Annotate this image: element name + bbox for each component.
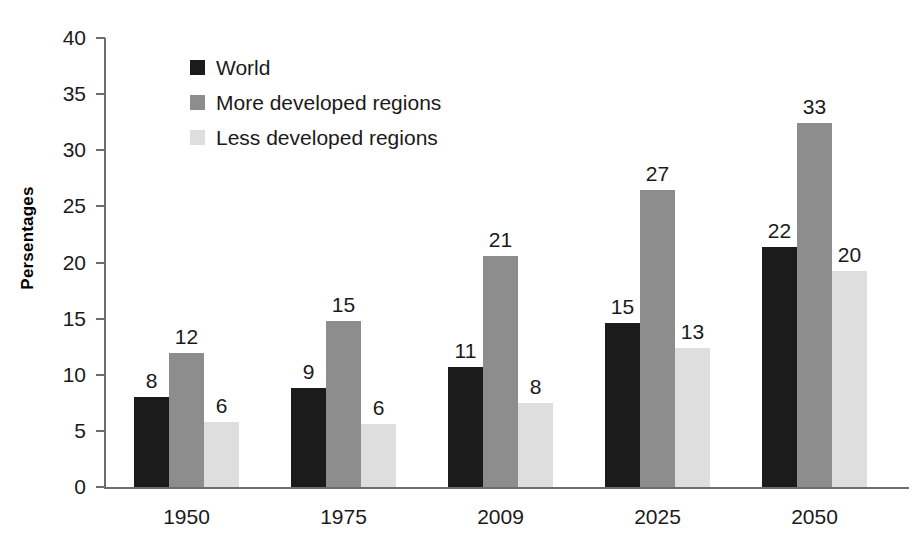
bar xyxy=(483,256,518,487)
x-axis-label: 1975 xyxy=(266,504,421,530)
bar xyxy=(134,397,169,487)
y-axis-title: Persentages xyxy=(18,158,38,318)
y-axis-tick-label: 20 xyxy=(0,250,86,276)
y-axis-tick-label: 35 xyxy=(0,81,86,107)
bar xyxy=(605,323,640,487)
bar xyxy=(291,388,326,487)
y-axis-tick-label: 40 xyxy=(0,25,86,51)
bar-chart: Persentages 0510152025303540 81269156112… xyxy=(0,0,917,559)
bar xyxy=(361,424,396,487)
legend-swatch-icon xyxy=(190,130,205,145)
bar xyxy=(762,247,797,487)
bar-value-label: 27 xyxy=(628,162,687,186)
x-axis-label: 1950 xyxy=(109,504,264,530)
bar xyxy=(518,403,553,487)
bar-value-label: 33 xyxy=(785,95,844,119)
bar xyxy=(204,422,239,487)
bar-value-label: 15 xyxy=(314,293,373,317)
legend-swatch-icon xyxy=(190,60,205,75)
y-axis-tick-label: 25 xyxy=(0,193,86,219)
chart-legend: WorldMore developed regionsLess develope… xyxy=(190,50,441,155)
x-axis-label: 2050 xyxy=(737,504,892,530)
bar xyxy=(832,271,867,487)
y-axis-tick-label: 10 xyxy=(0,362,86,388)
bar-value-label: 13 xyxy=(663,320,722,344)
y-axis-tick-label: 15 xyxy=(0,306,86,332)
bar xyxy=(675,348,710,487)
bar xyxy=(797,123,832,487)
bar-value-label: 8 xyxy=(506,375,565,399)
bar xyxy=(169,353,204,487)
x-axis-label: 2009 xyxy=(423,504,578,530)
y-axis-tick-label: 0 xyxy=(0,474,86,500)
bar-value-label: 20 xyxy=(820,243,879,267)
legend-label: World xyxy=(216,56,270,80)
legend-item: More developed regions xyxy=(190,85,441,120)
x-axis-line xyxy=(104,487,909,489)
y-axis-tick-label: 5 xyxy=(0,418,86,444)
bar xyxy=(448,367,483,487)
y-axis-tick-label: 30 xyxy=(0,137,86,163)
bar-value-label: 21 xyxy=(471,228,530,252)
legend-label: Less developed regions xyxy=(216,126,438,150)
legend-label: More developed regions xyxy=(216,91,441,115)
legend-item: World xyxy=(190,50,441,85)
legend-item: Less developed regions xyxy=(190,120,441,155)
bar-value-label: 6 xyxy=(192,394,251,418)
x-axis-label: 2025 xyxy=(580,504,735,530)
bar-value-label: 12 xyxy=(157,325,216,349)
bar-value-label: 6 xyxy=(349,396,408,420)
legend-swatch-icon xyxy=(190,95,205,110)
